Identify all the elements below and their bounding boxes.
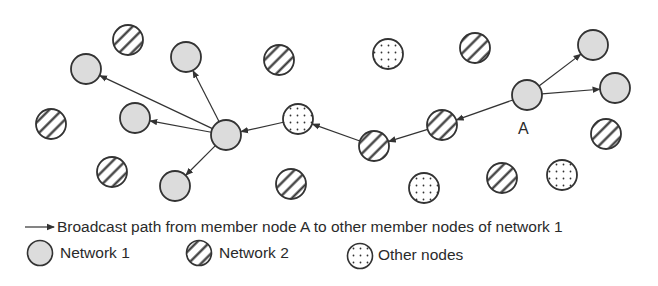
- legend-network1-label: Network 1: [60, 244, 130, 262]
- network2-node: [113, 25, 143, 55]
- legend-arrow-label: Broadcast path from member node A to oth…: [57, 218, 563, 236]
- broadcast-arrow: [313, 124, 360, 141]
- broadcast-arrow: [100, 76, 212, 129]
- other-node: [409, 173, 439, 203]
- legend-other-nodes-label: Other nodes: [378, 246, 463, 264]
- broadcast-arrow: [186, 146, 215, 175]
- other-node: [283, 104, 313, 134]
- network1-node: [160, 171, 190, 201]
- legend-network2-icon: [187, 241, 212, 266]
- network2-node: [264, 45, 294, 75]
- network2-node: [427, 110, 457, 140]
- network1-node: [71, 54, 101, 84]
- network2-node: [591, 119, 621, 149]
- network2-node: [276, 169, 306, 199]
- node-a: [512, 80, 542, 110]
- broadcast-arrow: [193, 71, 219, 122]
- network2-node: [359, 131, 389, 161]
- broadcast-arrow: [241, 122, 283, 131]
- broadcast-arrow: [457, 100, 513, 120]
- other-node: [373, 39, 403, 69]
- network-nodes: [36, 25, 630, 203]
- legend-other-nodes-icon: [348, 244, 373, 269]
- network1-node: [211, 120, 241, 150]
- network2-node: [460, 33, 490, 63]
- broadcast-arrow: [539, 54, 581, 86]
- node-a-label: A: [518, 120, 529, 138]
- other-node: [547, 160, 577, 190]
- legend-network2-label: Network 2: [219, 244, 289, 262]
- broadcast-arrow: [542, 89, 600, 94]
- network1-node: [171, 42, 201, 72]
- legend-network1-icon: [28, 241, 53, 266]
- broadcast-edges: [100, 54, 600, 175]
- network1-node: [120, 103, 150, 133]
- network1-node: [578, 30, 608, 60]
- broadcast-arrow: [150, 121, 211, 132]
- network1-node: [600, 73, 630, 103]
- broadcast-arrow: [389, 129, 428, 141]
- network2-node: [97, 157, 127, 187]
- network2-node: [487, 163, 517, 193]
- network2-node: [36, 109, 66, 139]
